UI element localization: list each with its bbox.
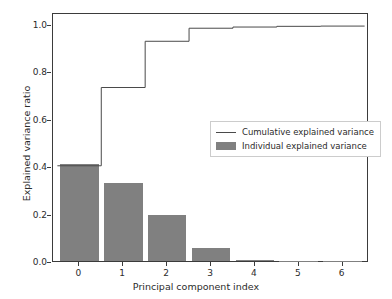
x-tick-label: 4 (244, 268, 264, 278)
y-tick-label: 0.6 (33, 115, 47, 125)
chart-figure: 0.00.20.40.60.81.0 0123456 Cumulative ex… (0, 0, 392, 299)
y-tick-mark (47, 72, 51, 73)
line-swatch-icon (216, 132, 236, 133)
bar-swatch-icon (216, 142, 236, 150)
y-tick-label: 0.0 (33, 257, 47, 267)
y-tick-mark (47, 215, 51, 216)
chart-legend: Cumulative explained variance Individual… (210, 121, 381, 157)
x-tick-label: 1 (112, 268, 132, 278)
legend-item-individual: Individual explained variance (216, 140, 374, 152)
legend-item-cumulative: Cumulative explained variance (216, 126, 374, 138)
y-axis-label: Explained variance ratio (21, 54, 32, 234)
legend-label-cumulative: Cumulative explained variance (242, 127, 374, 137)
x-tick-label: 5 (288, 268, 308, 278)
y-tick-label: 0.2 (33, 210, 47, 220)
y-tick-mark (47, 262, 51, 263)
x-axis-label: Principal component index (0, 281, 392, 292)
x-tick-label: 0 (68, 268, 88, 278)
y-tick-label: 0.4 (33, 162, 47, 172)
y-tick-mark (47, 120, 51, 121)
x-tick-label: 6 (332, 268, 352, 278)
y-tick-mark (47, 25, 51, 26)
legend-label-individual: Individual explained variance (242, 141, 367, 151)
y-tick-label: 0.8 (33, 67, 47, 77)
y-tick-mark (47, 167, 51, 168)
y-tick-label: 1.0 (33, 20, 47, 30)
x-tick-label: 2 (156, 268, 176, 278)
x-tick-label: 3 (200, 268, 220, 278)
